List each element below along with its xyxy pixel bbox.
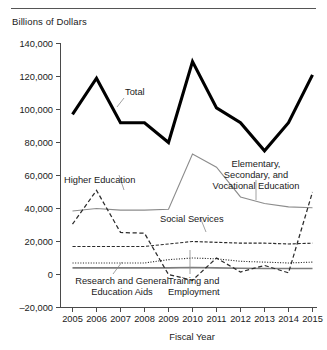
annotation-training-line1: Training and xyxy=(168,276,219,286)
x-tick-label: 2006 xyxy=(86,314,107,324)
x-tick-label: 2012 xyxy=(230,314,251,324)
series-line-research xyxy=(73,268,313,269)
x-tick-label: 2007 xyxy=(110,314,131,324)
y-tick-label: 20,000 xyxy=(25,237,53,247)
y-axis-tick-labels: 140,000 120,000 100,000 80,000 60,000 40… xyxy=(19,39,53,313)
y-tick-label: –20,000 xyxy=(19,303,53,313)
annotation-research-line2: Education Aids xyxy=(91,287,153,297)
y-axis-ticks xyxy=(56,44,61,308)
x-axis-label: Fiscal Year xyxy=(169,332,214,342)
x-tick-label: 2014 xyxy=(278,314,299,324)
y-tick-label: 80,000 xyxy=(25,138,53,148)
annotation-research-line1: Research and General xyxy=(75,276,169,286)
y-tick-label: 40,000 xyxy=(25,204,53,214)
y-tick-label: 100,000 xyxy=(19,105,53,115)
x-tick-label: 2008 xyxy=(134,314,155,324)
x-axis-ticks xyxy=(73,308,313,313)
x-tick-label: 2009 xyxy=(158,314,179,324)
x-tick-label: 2005 xyxy=(62,314,83,324)
x-tick-label: 2015 xyxy=(302,314,323,324)
x-tick-label: 2013 xyxy=(254,314,275,324)
y-tick-label: 60,000 xyxy=(25,171,53,181)
annotation-elementary-line1: Elementary, xyxy=(232,159,281,169)
leader-total xyxy=(117,98,124,107)
annotation-elementary-line3: Vocational Education xyxy=(213,181,300,191)
series-line-total xyxy=(73,62,313,151)
series-line-training-employment xyxy=(73,258,313,263)
y-tick-label: 120,000 xyxy=(19,72,53,82)
line-chart-plot: 140,000 120,000 100,000 80,000 60,000 40… xyxy=(0,0,327,350)
annotation-social-services: Social Services xyxy=(160,214,224,224)
x-tick-label: 2011 xyxy=(207,314,227,324)
x-tick-label: 2010 xyxy=(182,314,203,324)
y-tick-label: 140,000 xyxy=(19,39,53,49)
x-axis-tick-labels: 2005 2006 2007 2008 2009 2010 2011 2012 … xyxy=(62,314,323,324)
annotation-total: Total xyxy=(125,87,145,97)
y-tick-label: 0 xyxy=(48,270,53,280)
annotation-elementary-line2: Secondary, and xyxy=(224,170,288,180)
series-line-social-services xyxy=(73,242,313,247)
annotation-higher-education: Higher Education xyxy=(64,175,135,185)
figure-container: Billions of Dollars 140,000 120,000 100,… xyxy=(0,0,327,350)
annotation-training-line2: Employment xyxy=(168,287,220,297)
